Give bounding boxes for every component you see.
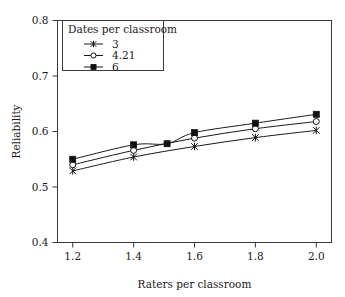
data-series-group <box>69 111 319 174</box>
open-circle-marker <box>131 147 137 153</box>
y-axis-title: Reliability <box>10 104 22 158</box>
chart-container: 0.40.50.60.70.8 1.21.41.61.82.0 Raters p… <box>0 0 345 297</box>
legend-title: Dates per classroom <box>68 23 177 35</box>
y-tick-label: 0.5 <box>32 181 49 193</box>
filled-square-marker <box>313 111 319 117</box>
open-circle-marker <box>70 162 76 168</box>
x-tick-label: 1.8 <box>247 250 264 262</box>
filled-square-marker <box>252 120 258 126</box>
filled-square-marker <box>192 130 198 136</box>
open-circle-marker <box>91 53 96 58</box>
open-circle-marker <box>313 119 319 125</box>
x-tick-label: 1.6 <box>186 250 203 262</box>
reliability-line-chart: 0.40.50.60.70.8 1.21.41.61.82.0 Raters p… <box>0 0 345 297</box>
filled-square-marker <box>91 64 96 69</box>
legend: Dates per classroom 34.216 <box>63 21 178 73</box>
open-circle-marker <box>192 135 198 141</box>
filled-square-marker <box>164 141 170 147</box>
x-tick-label: 1.4 <box>125 250 142 262</box>
y-tick-label: 0.7 <box>32 70 49 82</box>
y-tick-label: 0.4 <box>32 236 49 248</box>
x-axis: 1.21.41.61.82.0 <box>64 243 324 262</box>
y-tick-label: 0.6 <box>32 125 49 137</box>
x-tick-label: 2.0 <box>308 250 325 262</box>
filled-square-marker <box>131 142 137 148</box>
x-axis-title: Raters per classroom <box>138 278 252 290</box>
legend-entry-label: 3 <box>112 38 119 50</box>
legend-entry-label: 4.21 <box>112 49 135 61</box>
filled-square-marker <box>70 156 76 162</box>
x-tick-label: 1.2 <box>64 250 81 262</box>
y-tick-label: 0.8 <box>32 14 49 26</box>
y-axis: 0.40.50.60.70.8 <box>32 14 58 248</box>
open-circle-marker <box>252 126 258 132</box>
legend-entry-label: 6 <box>112 61 119 73</box>
